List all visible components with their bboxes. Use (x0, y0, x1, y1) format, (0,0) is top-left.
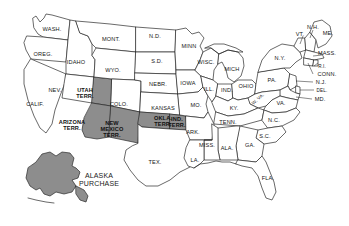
state-north-dakota (136, 27, 176, 52)
territory-indian (170, 114, 188, 130)
state-nebraska (135, 73, 178, 94)
map-svg (0, 0, 349, 226)
territory-utah (92, 77, 112, 106)
state-oregon (24, 36, 68, 62)
territory-alaska-purchase (26, 152, 80, 196)
state-wyoming (92, 48, 136, 80)
state-south-dakota (135, 52, 176, 74)
state-florida (236, 156, 276, 200)
leader-line-new-jersey (296, 81, 313, 82)
state-california (24, 59, 66, 133)
state-alabama (218, 126, 240, 160)
territory-arizona (82, 103, 111, 139)
territory-oklahoma (138, 112, 170, 129)
territory-new-mexico (109, 106, 140, 143)
state-kansas (140, 92, 180, 115)
historical-us-map: WASH.OREG.IDAHOMONT.N.D.S.D.MINNWYO.NEBR… (0, 0, 349, 226)
alaska-panhandle (76, 186, 88, 202)
state-washington (33, 14, 70, 40)
state-new-york (258, 44, 302, 72)
state-nevada (62, 74, 94, 103)
aleutian-islands (28, 198, 54, 203)
state-michigan (218, 50, 244, 82)
